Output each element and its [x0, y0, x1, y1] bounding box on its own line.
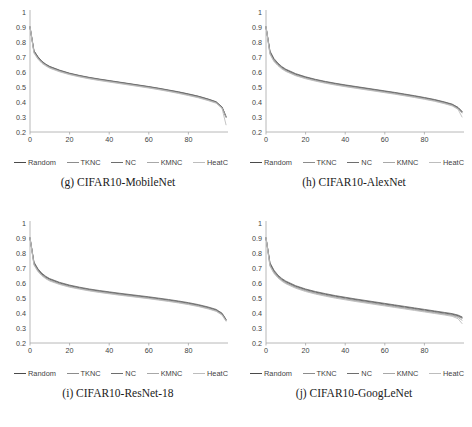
panel-caption-h: (h) CIFAR10-AlexNet: [236, 176, 472, 188]
svg-text:80: 80: [420, 135, 428, 144]
svg-text:20: 20: [66, 135, 74, 144]
legend-swatch-random: [250, 373, 262, 374]
legend-swatch-heatc: [429, 162, 441, 163]
svg-text:0.7: 0.7: [16, 53, 26, 62]
svg-text:0: 0: [264, 135, 268, 144]
chart-panel-h: 0.20.30.40.50.60.70.80.91020406080 Rando…: [236, 2, 472, 207]
legend-label-heatc: HeatC: [443, 158, 464, 167]
legend-swatch-nc: [347, 373, 359, 374]
plot-area-i: 0.20.30.40.50.60.70.80.91020406080: [0, 213, 236, 371]
plot-area-j: 0.20.30.40.50.60.70.80.91020406080: [236, 213, 472, 371]
legend-label-tknc: TKNC: [317, 369, 337, 378]
legend-label-tknc: TKNC: [81, 158, 101, 167]
legend-label-random: Random: [264, 158, 292, 167]
svg-text:1: 1: [258, 219, 262, 228]
legend-label-random: Random: [264, 369, 292, 378]
legend-item-heatc: HeatC: [193, 369, 228, 378]
svg-text:0.3: 0.3: [252, 113, 262, 122]
svg-text:0.7: 0.7: [252, 53, 262, 62]
legend-swatch-heatc: [429, 373, 441, 374]
legend-item-random: Random: [250, 158, 292, 167]
legend-swatch-heatc: [193, 373, 205, 374]
svg-text:0.3: 0.3: [16, 113, 26, 122]
legend-label-tknc: TKNC: [317, 158, 337, 167]
legend-swatch-kmnc: [147, 162, 159, 163]
svg-text:0.2: 0.2: [252, 128, 262, 137]
legend-item-nc: NC: [347, 158, 372, 167]
svg-text:0.7: 0.7: [252, 264, 262, 273]
legend-item-heatc: HeatC: [193, 158, 228, 167]
panel-caption-g: (g) CIFAR10-MobileNet: [0, 176, 236, 188]
svg-text:0.7: 0.7: [16, 264, 26, 273]
svg-text:0.4: 0.4: [16, 309, 26, 318]
legend-h: Random TKNC NC KMNC HeatC: [250, 154, 464, 170]
svg-text:0.5: 0.5: [252, 83, 262, 92]
legend-label-kmnc: KMNC: [397, 158, 419, 167]
svg-text:0.2: 0.2: [16, 128, 26, 137]
legend-i: Random TKNC NC KMNC HeatC: [14, 365, 228, 381]
legend-label-nc: NC: [361, 158, 372, 167]
svg-text:0: 0: [28, 346, 32, 355]
svg-text:40: 40: [341, 346, 349, 355]
svg-text:0.9: 0.9: [16, 234, 26, 243]
legend-g: Random TKNC NC KMNC HeatC: [14, 154, 228, 170]
panel-caption-j: (j) CIFAR10-GoogLeNet: [236, 387, 472, 399]
legend-label-kmnc: KMNC: [161, 369, 183, 378]
svg-text:0.8: 0.8: [16, 249, 26, 258]
legend-swatch-tknc: [67, 373, 79, 374]
svg-text:1: 1: [22, 219, 26, 228]
svg-text:0.4: 0.4: [252, 98, 262, 107]
svg-text:0.5: 0.5: [252, 294, 262, 303]
legend-label-heatc: HeatC: [207, 158, 228, 167]
legend-item-heatc: HeatC: [429, 369, 464, 378]
svg-text:0.3: 0.3: [16, 324, 26, 333]
svg-text:0.6: 0.6: [252, 279, 262, 288]
legend-swatch-kmnc: [147, 373, 159, 374]
legend-label-tknc: TKNC: [81, 369, 101, 378]
svg-text:0.6: 0.6: [16, 279, 26, 288]
legend-label-nc: NC: [125, 369, 136, 378]
legend-item-random: Random: [14, 369, 56, 378]
svg-text:0.8: 0.8: [252, 38, 262, 47]
svg-text:0.6: 0.6: [16, 68, 26, 77]
legend-item-tknc: TKNC: [303, 369, 337, 378]
svg-text:40: 40: [105, 135, 113, 144]
svg-text:60: 60: [381, 346, 389, 355]
chart-panel-i: 0.20.30.40.50.60.70.80.91020406080 Rando…: [0, 213, 236, 418]
legend-swatch-nc: [111, 162, 123, 163]
svg-text:60: 60: [145, 135, 153, 144]
svg-text:80: 80: [420, 346, 428, 355]
legend-swatch-tknc: [67, 162, 79, 163]
legend-swatch-tknc: [303, 373, 315, 374]
svg-text:20: 20: [302, 346, 310, 355]
svg-text:20: 20: [66, 346, 74, 355]
legend-j: Random TKNC NC KMNC HeatC: [250, 365, 464, 381]
svg-text:0: 0: [28, 135, 32, 144]
legend-item-tknc: TKNC: [303, 158, 337, 167]
svg-text:60: 60: [145, 346, 153, 355]
svg-text:1: 1: [22, 8, 26, 17]
svg-text:0.8: 0.8: [252, 249, 262, 258]
svg-text:0.9: 0.9: [252, 234, 262, 243]
legend-item-kmnc: KMNC: [147, 369, 183, 378]
legend-label-kmnc: KMNC: [397, 369, 419, 378]
svg-text:20: 20: [302, 135, 310, 144]
legend-label-heatc: HeatC: [443, 369, 464, 378]
svg-text:60: 60: [381, 135, 389, 144]
svg-text:40: 40: [341, 135, 349, 144]
legend-item-kmnc: KMNC: [383, 158, 419, 167]
plot-area-g: 0.20.30.40.50.60.70.80.91020406080: [0, 2, 236, 160]
legend-swatch-nc: [347, 162, 359, 163]
line-chart-h: 0.20.30.40.50.60.70.80.91020406080: [236, 2, 472, 154]
svg-text:80: 80: [184, 346, 192, 355]
legend-item-random: Random: [14, 158, 56, 167]
legend-label-heatc: HeatC: [207, 369, 228, 378]
legend-item-nc: NC: [111, 369, 136, 378]
plot-area-h: 0.20.30.40.50.60.70.80.91020406080: [236, 2, 472, 160]
legend-swatch-random: [14, 373, 26, 374]
legend-item-tknc: TKNC: [67, 158, 101, 167]
legend-swatch-heatc: [193, 162, 205, 163]
legend-label-nc: NC: [125, 158, 136, 167]
svg-text:0: 0: [264, 346, 268, 355]
svg-text:0.9: 0.9: [16, 23, 26, 32]
